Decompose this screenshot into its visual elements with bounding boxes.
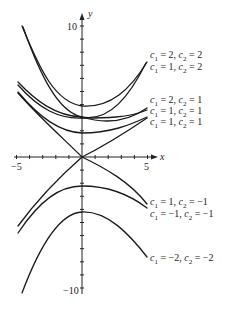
curve-c1-1-c2-2 (23, 27, 146, 118)
curve-label-c1-1-c2-2: c1 = 1, c2 = 2 (150, 62, 202, 76)
y-axis-label: y (88, 9, 92, 19)
x-max-tick-label: 5 (144, 162, 149, 172)
curve-label-c1-1-c2-1-b: c1 = 1, c2 = 1 (150, 117, 202, 131)
y-axis-arrow-icon (80, 13, 85, 20)
curve-label-c1-neg2-c2-neg2: c1 = −2, c2 = −2 (150, 253, 213, 267)
y-min-tick-label: −10 (63, 286, 79, 296)
curve-label-c1-neg1-c2-neg1: c1 = −1, c2 = −1 (150, 209, 213, 223)
x-axis-arrow-icon (151, 155, 158, 160)
curve-c1-2-c2-2 (22, 26, 147, 106)
x-min-tick-label: −5 (11, 162, 22, 172)
x-axis-label: x (160, 152, 164, 162)
curve-c1-neg2-c2-neg2 (22, 212, 147, 293)
y-max-tick-label: 10 (67, 22, 77, 32)
